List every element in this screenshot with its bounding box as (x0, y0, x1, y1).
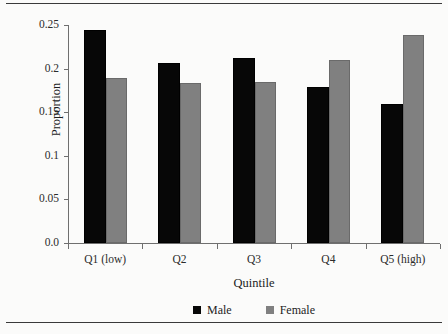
x-axis-tick (366, 244, 367, 249)
y-axis-tick-label: 0.25 (13, 19, 59, 31)
x-axis-category-label: Q5 (high) (380, 253, 425, 265)
x-axis-category-label: Q4 (321, 253, 335, 265)
bar-female-4 (329, 60, 350, 243)
x-axis-tick (217, 244, 218, 249)
legend-label-female: Female (280, 304, 315, 316)
legend-item-female[interactable]: Female (266, 304, 315, 316)
x-axis-title: Quintile (68, 277, 440, 290)
y-axis-tick (64, 25, 69, 26)
x-axis-tick (142, 244, 143, 249)
bar-male-2 (158, 63, 180, 244)
bar-male-5 (381, 104, 403, 243)
y-axis-line (68, 25, 69, 244)
y-axis-tick (64, 69, 69, 70)
x-axis-category-label: Q1 (low) (84, 253, 126, 265)
legend-label-male: Male (207, 304, 232, 316)
top-divider-rule (6, 3, 442, 4)
y-axis-tick (64, 156, 69, 157)
bar-male-1 (84, 30, 106, 243)
y-axis-tick-label: 0.2 (13, 63, 59, 75)
y-axis-tick-label: 0.1 (13, 150, 59, 162)
legend-swatch-male-icon (193, 306, 201, 314)
bar-male-4 (307, 87, 329, 243)
bar-female-2 (180, 83, 201, 243)
bar-female-3 (255, 82, 276, 243)
x-axis-category-label: Q2 (173, 253, 187, 265)
y-axis-tick (64, 112, 69, 113)
figure-panel: 0.00.050.10.150.20.25 Q1 (low)Q2Q3Q4Q5 (… (0, 0, 448, 334)
y-axis-tick (64, 199, 69, 200)
y-axis-tick-label: 0.05 (13, 193, 59, 205)
x-axis-tick (440, 244, 441, 249)
bar-female-1 (106, 78, 127, 243)
chart-legend: Male Female (68, 304, 440, 316)
bar-female-5 (403, 35, 424, 243)
x-axis-tick (291, 244, 292, 249)
legend-swatch-female-icon (266, 306, 274, 314)
legend-item-male[interactable]: Male (193, 304, 232, 316)
bottom-divider-rule (6, 322, 442, 323)
x-axis-tick (68, 244, 69, 249)
x-axis-line (68, 243, 440, 244)
y-axis-title: Proportion (50, 83, 63, 136)
x-axis-category-label: Q3 (247, 253, 261, 265)
bar-male-3 (233, 58, 255, 243)
y-axis-tick-label: 0.0 (13, 237, 59, 249)
plot-area: 0.00.050.10.150.20.25 Q1 (low)Q2Q3Q4Q5 (… (68, 25, 440, 244)
